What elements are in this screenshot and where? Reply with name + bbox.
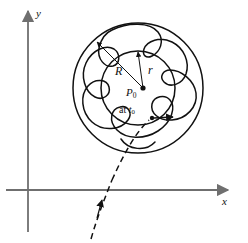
point-P0: [140, 85, 145, 90]
y-axis-label: y: [36, 8, 41, 19]
time-annotation-sub: 0: [132, 108, 135, 115]
radius-r-arrow: [138, 52, 143, 88]
velocity-arrow-at-t0: [154, 117, 173, 118]
point-P0-label-main: P: [126, 86, 133, 98]
point-at-t0: [150, 116, 154, 120]
time-annotation-label: at t0: [119, 105, 135, 116]
time-annotation-prefix: at: [119, 104, 129, 115]
radius-r-label: r: [148, 64, 153, 76]
point-P0-label-sub: 0: [133, 91, 137, 100]
trajectory-loop-tail: [121, 139, 155, 148]
figure-drawing: [0, 0, 248, 243]
x-axis-label: x: [222, 196, 227, 207]
axis-group: [6, 11, 228, 232]
trajectory-loop: [83, 24, 196, 137]
point-P0-label: P0: [126, 87, 136, 99]
figure-container: y x R r P0 at t0: [0, 0, 248, 243]
incoming-dashed-trajectory: [91, 180, 112, 239]
radius-R-label: R: [115, 65, 122, 77]
